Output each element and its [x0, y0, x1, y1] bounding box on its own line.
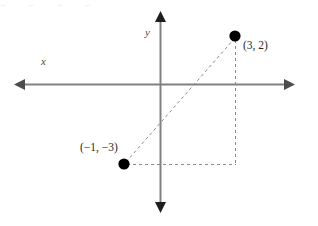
y-axis-bottom-arrowhead — [155, 202, 166, 213]
x-axis-group — [14, 79, 295, 90]
y-axis-label: y — [145, 27, 150, 38]
x-axis-label: x — [41, 56, 46, 67]
dashed-triangle-group — [126, 39, 236, 165]
y-axis-group — [155, 11, 166, 213]
plotted-points-group — [118, 30, 240, 169]
x-axis-left-arrowhead — [14, 79, 25, 90]
figure-canvas: g g g g x y (3, 2) (−1, −3) — [0, 0, 318, 226]
point-b-label: (−1, −3) — [80, 142, 118, 154]
dashed-hypotenuse — [126, 39, 234, 162]
y-axis-top-arrowhead — [155, 11, 166, 22]
point-a-label: (3, 2) — [243, 40, 268, 52]
coordinate-plane-graphic — [0, 0, 318, 226]
point-b-marker[interactable] — [118, 158, 129, 169]
point-a-marker[interactable] — [229, 30, 240, 41]
x-axis-right-arrowhead — [284, 79, 295, 90]
